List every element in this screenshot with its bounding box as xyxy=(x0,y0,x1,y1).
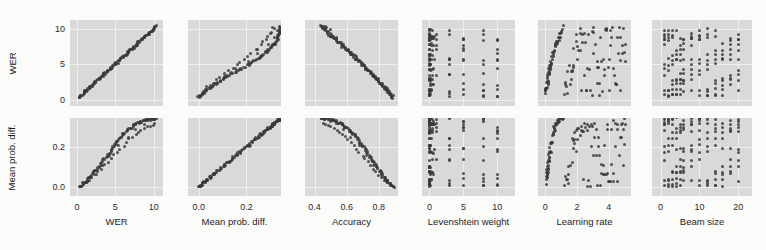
data-point xyxy=(584,41,587,44)
gridline-horizontal xyxy=(70,147,163,148)
data-point xyxy=(690,159,693,162)
x-axis-label: Accuracy xyxy=(332,216,371,227)
data-point xyxy=(448,29,451,32)
data-point xyxy=(260,43,263,46)
gridline-horizontal xyxy=(305,147,398,148)
data-point xyxy=(675,127,678,130)
gridline-horizontal xyxy=(305,187,398,188)
data-point xyxy=(433,58,436,61)
data-point xyxy=(561,28,564,31)
data-point xyxy=(246,55,249,58)
data-point xyxy=(690,58,693,61)
data-point xyxy=(679,88,682,91)
gridline-horizontal xyxy=(70,29,163,30)
data-point xyxy=(583,32,586,35)
data-point xyxy=(675,118,678,119)
data-point xyxy=(706,150,709,153)
data-point xyxy=(350,51,353,54)
data-point xyxy=(714,82,717,85)
gridline-horizontal xyxy=(538,187,631,188)
gridline-horizontal xyxy=(422,64,515,65)
data-point xyxy=(609,44,612,47)
data-point xyxy=(579,49,582,52)
gridline-horizontal xyxy=(70,100,163,101)
data-point xyxy=(428,170,431,173)
gridline-vertical xyxy=(609,20,610,106)
data-point xyxy=(572,47,575,50)
x-tick-label: 0 xyxy=(427,202,432,212)
data-point xyxy=(152,28,155,31)
data-point xyxy=(690,130,693,133)
data-point xyxy=(597,66,600,69)
data-point xyxy=(279,118,281,121)
data-point xyxy=(608,89,611,92)
data-point xyxy=(462,38,465,41)
x-tick-label: 0.4 xyxy=(308,202,321,212)
data-point xyxy=(714,144,717,147)
data-point xyxy=(729,53,732,56)
data-point xyxy=(482,39,485,42)
gridline-vertical xyxy=(661,118,662,196)
data-point xyxy=(586,185,589,188)
data-point xyxy=(706,68,709,71)
data-point xyxy=(428,28,431,31)
data-point xyxy=(622,27,625,30)
data-point xyxy=(667,64,670,67)
data-point xyxy=(619,89,622,92)
data-point xyxy=(350,141,353,144)
data-point xyxy=(671,29,674,32)
data-point xyxy=(256,48,259,51)
data-point xyxy=(612,67,615,70)
gridline-vertical xyxy=(115,118,116,196)
data-point xyxy=(737,43,740,46)
gridline-horizontal xyxy=(422,147,515,148)
data-point xyxy=(153,118,156,121)
data-point xyxy=(679,82,682,85)
data-point xyxy=(462,158,465,161)
data-point xyxy=(599,36,602,39)
data-point xyxy=(616,180,619,183)
data-point xyxy=(428,88,431,91)
data-point xyxy=(624,60,627,63)
data-point xyxy=(139,129,142,132)
gridline-vertical xyxy=(154,20,155,106)
data-point xyxy=(616,36,619,39)
data-point xyxy=(429,93,432,96)
gridline-horizontal xyxy=(305,64,398,65)
data-point xyxy=(737,33,740,36)
scatter-panel-r0-c2 xyxy=(305,20,398,106)
data-point xyxy=(357,151,360,154)
y-tick-label: 0 xyxy=(36,95,65,105)
data-point xyxy=(682,179,685,182)
data-point xyxy=(714,87,717,90)
data-point xyxy=(567,182,570,185)
data-point xyxy=(223,163,226,166)
data-point xyxy=(372,168,375,171)
data-point xyxy=(617,52,620,55)
data-point xyxy=(566,92,569,95)
data-point xyxy=(548,146,551,149)
data-point xyxy=(462,49,465,52)
data-point xyxy=(580,125,583,128)
data-point xyxy=(380,176,383,179)
data-point xyxy=(215,171,218,174)
data-point xyxy=(462,184,465,187)
data-point xyxy=(616,128,619,131)
gridline-vertical xyxy=(347,20,348,106)
x-tick-label: 0.2 xyxy=(240,202,253,212)
data-point xyxy=(623,118,626,120)
gridline-horizontal xyxy=(538,29,631,30)
gridline-vertical xyxy=(379,20,380,106)
data-point xyxy=(571,161,574,164)
scatter-panel-r1-c5 xyxy=(652,118,752,196)
data-point xyxy=(698,73,701,76)
data-point xyxy=(123,145,126,148)
data-point xyxy=(587,179,590,182)
data-point xyxy=(671,79,674,82)
data-point xyxy=(125,141,128,144)
data-point xyxy=(682,58,685,61)
data-point xyxy=(496,59,499,62)
data-point xyxy=(714,118,717,121)
data-point xyxy=(682,119,685,122)
data-point xyxy=(671,63,674,66)
